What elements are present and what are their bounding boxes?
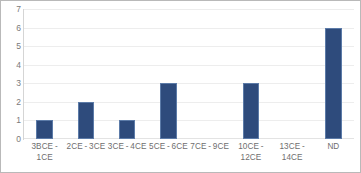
y-tick-label: 1: [16, 116, 21, 125]
bar[interactable]: [160, 83, 177, 139]
bar[interactable]: [78, 102, 95, 139]
bar-slot: [148, 9, 189, 139]
x-tick-label: 2CE - 3CE: [65, 141, 106, 152]
y-tick-label: 3: [16, 79, 21, 88]
plot-area: [24, 9, 354, 139]
x-tick-label: 3BCE - 1CE: [24, 141, 65, 163]
y-tick-label: 6: [16, 23, 21, 32]
y-tick-label: 7: [16, 5, 21, 14]
y-tick-label: 0: [16, 135, 21, 144]
bar-slot: [107, 9, 148, 139]
bar[interactable]: [243, 83, 260, 139]
x-tick-label: 3CE - 4CE: [107, 141, 148, 152]
bar-slot: [313, 9, 354, 139]
y-tick-label: 4: [16, 60, 21, 69]
x-tick-label: 13CE - 14CE: [272, 141, 313, 163]
x-tick-label: ND: [313, 141, 354, 152]
y-tick-label: 2: [16, 98, 21, 107]
x-tick-label: 7CE - 9CE: [189, 141, 230, 152]
y-tick-label: 5: [16, 42, 21, 51]
x-tick-label: 5CE - 6CE: [148, 141, 189, 152]
bar-slot: [65, 9, 106, 139]
bar-slot: [24, 9, 65, 139]
bar-slot: [272, 9, 313, 139]
chart-container: 01234567 3BCE - 1CE2CE - 3CE3CE - 4CE5CE…: [0, 0, 361, 173]
bar[interactable]: [36, 120, 53, 139]
y-axis: 01234567: [5, 9, 21, 139]
x-tick-label: 10CE - 12CE: [230, 141, 271, 163]
bar-slot: [189, 9, 230, 139]
bar-slot: [230, 9, 271, 139]
chart-plot-wrapper: 01234567 3BCE - 1CE2CE - 3CE3CE - 4CE5CE…: [1, 1, 360, 172]
x-axis: 3BCE - 1CE2CE - 3CE3CE - 4CE5CE - 6CE7CE…: [24, 141, 354, 169]
bar-series: [24, 9, 354, 139]
bar[interactable]: [119, 120, 136, 139]
bar[interactable]: [325, 28, 342, 139]
